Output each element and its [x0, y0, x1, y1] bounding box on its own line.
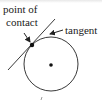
label-tangent: tangent [65, 25, 97, 36]
center-dot [49, 63, 53, 67]
tangent-arrow [50, 30, 63, 34]
contact-point-dot [30, 43, 34, 47]
label-contact: contact [6, 17, 38, 28]
contact-arrow [24, 33, 30, 42]
label-point-of: point of [3, 4, 38, 15]
stray-mark [41, 97, 42, 100]
